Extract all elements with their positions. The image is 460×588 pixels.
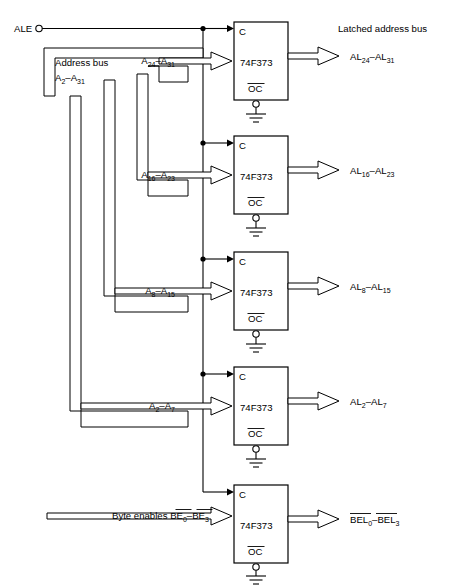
latch-3-oc-bubble-icon	[253, 331, 259, 337]
latch-1-output-label: AL24–AL31	[350, 51, 395, 64]
latch-5-oc-bubble-icon	[253, 564, 259, 570]
latch-4-oc-bubble-icon	[253, 446, 259, 452]
latch-2-output-label: AL16–AL23	[350, 165, 395, 178]
latch-3-output-label: AL8–AL15	[350, 281, 391, 294]
latch-4-output-bus-arrow	[288, 392, 339, 410]
latch-5-output-label: BEL0–BEL3	[350, 514, 400, 527]
latch-4-output-label: AL2–AL7	[350, 396, 387, 409]
bus-channel-a24-a31	[148, 66, 188, 82]
latch-4-oc-pin-label: OC	[248, 428, 262, 439]
latch-4-ground-icon	[246, 459, 266, 467]
latch-1-clock-arrowhead-icon	[227, 25, 234, 32]
latch-4-clock-arrowhead-icon	[227, 371, 234, 378]
latch-5-clock-pin-label: C	[239, 489, 246, 500]
latch-2-ground-icon	[246, 228, 266, 236]
latch-3-ground-icon	[246, 344, 266, 352]
schematic-canvas: ALE Address bus A2–A31 C 74F373 OC	[0, 0, 460, 588]
schematic-diagram: ALE Address bus A2–A31 C 74F373 OC	[0, 0, 460, 588]
latched-address-bus-header: Latched address bus	[338, 23, 427, 34]
latch-2-chip-label: 74F373	[240, 171, 273, 182]
byte-enables-label: Byte enables BE0–BE3	[112, 510, 209, 523]
latch-3-chip-label: 74F373	[240, 287, 273, 298]
latch-5-clock-arrowhead-icon	[227, 489, 234, 496]
latch-3-output-bus-arrow	[288, 277, 339, 295]
address-bus-label-line2: A2–A31	[55, 72, 85, 85]
latch-5-group: C 74F373 OC Byte enables BE0–BE3 BEL0–BE…	[47, 485, 400, 584]
latch-2-oc-pin-label: OC	[248, 197, 262, 208]
bus-channel-a2-a7	[70, 96, 188, 427]
latch-1-clock-pin-label: C	[239, 26, 246, 37]
ale-terminal-icon	[36, 25, 42, 31]
latch-4-chip-label: 74F373	[240, 402, 273, 413]
latch-3-clock-arrowhead-icon	[227, 256, 234, 263]
latch-3-clock-pin-label: C	[239, 256, 246, 267]
latch-2-oc-bubble-icon	[253, 215, 259, 221]
latch-1-output-bus-arrow	[288, 47, 339, 65]
latch-5-ground-icon	[246, 576, 266, 584]
ale-label: ALE	[14, 23, 32, 34]
latch-5-output-bus-arrow	[288, 510, 339, 528]
latch-1-oc-pin-label: OC	[248, 83, 262, 94]
latch-1-ground-icon	[246, 114, 266, 122]
latch-1-oc-bubble-icon	[253, 101, 259, 107]
latch-2-output-bus-arrow	[288, 161, 339, 179]
latch-1-chip-label: 74F373	[240, 57, 273, 68]
address-bus-label-line1: Address bus	[55, 57, 109, 68]
latch-3-oc-pin-label: OC	[248, 313, 262, 324]
latch-4-clock-pin-label: C	[239, 371, 246, 382]
latch-2-clock-pin-label: C	[239, 140, 246, 151]
latch-2-clock-arrowhead-icon	[227, 140, 234, 147]
latch-5-oc-pin-label: OC	[248, 546, 262, 557]
latch-5-chip-label: 74F373	[240, 520, 273, 531]
